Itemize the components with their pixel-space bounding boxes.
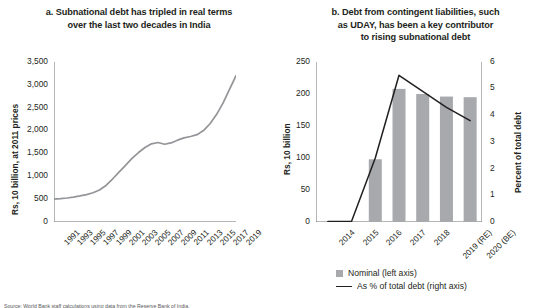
panel-a-ytick-0: 0 <box>14 217 48 226</box>
panel-a-ytick-1000: 1,000 <box>14 171 48 180</box>
bar-2018 <box>416 94 429 222</box>
panel-b-ytick-right-5: 5 <box>490 83 510 92</box>
panel-b-ytick-right-0: 0 <box>490 217 510 226</box>
legend-line-icon <box>336 286 352 287</box>
panel-a-ytick-3500: 3,500 <box>14 57 48 66</box>
chart-panel-a: a. Subnational debt has tripled in real … <box>0 0 278 308</box>
bar-2019 (RE) <box>440 97 453 222</box>
panel-b-xtick-2015: 2015 <box>361 228 380 247</box>
chart-legend: Nominal (left axis) As % of total debt (… <box>318 268 553 294</box>
panel-b-xtick-2018: 2018 <box>432 228 451 247</box>
panel-b-ytick-right-6: 6 <box>490 57 510 66</box>
panel-b-ytick-200: 200 <box>280 89 310 98</box>
panel-b-xtick-2016: 2016 <box>385 228 404 247</box>
panel-b-ytick-0: 0 <box>280 217 310 226</box>
panel-b-ytick-150: 150 <box>280 121 310 130</box>
panel-b-ytick-right-3: 3 <box>490 137 510 146</box>
panel-b-ytick-right-4: 4 <box>490 110 510 119</box>
panel-a-title: a. Subnational debt has tripled in real … <box>0 6 278 31</box>
panel-a-plot-area <box>54 62 236 222</box>
panel-b-ytick-right-2: 2 <box>490 164 510 173</box>
panel-b-xtick-2017: 2017 <box>408 228 427 247</box>
panel-a-ytick-2500: 2,500 <box>14 103 48 112</box>
panel-b-ytick-100: 100 <box>280 153 310 162</box>
panel-a-ytick-3000: 3,000 <box>14 80 48 89</box>
panel-b-ytick-right-1: 1 <box>490 190 510 199</box>
legend-label-percent: As % of total debt (right axis) <box>357 281 467 291</box>
legend-item-nominal: Nominal (left axis) <box>318 268 553 278</box>
panel-a-ytick-2000: 2,000 <box>14 125 48 134</box>
panel-b-ytick-50: 50 <box>280 185 310 194</box>
panel-b-plot-area <box>316 62 482 222</box>
panel-b-title: b. Debt from contingent liabilities, suc… <box>278 6 553 44</box>
legend-item-percent: As % of total debt (right axis) <box>318 281 553 291</box>
panel-a-ytick-500: 500 <box>14 194 48 203</box>
panel-b-y-axis-label-left: Rs, 10 billion <box>282 123 292 175</box>
source-note: Source: World Bank staff calculations us… <box>4 303 190 308</box>
bar-2017 <box>393 89 406 222</box>
panel-a-ytick-1500: 1,500 <box>14 148 48 157</box>
panel-b-ytick-250: 250 <box>280 57 310 66</box>
chart-panel-b: b. Debt from contingent liabilities, suc… <box>278 0 553 308</box>
panel-b-y-axis-label-right: Percent of total debt <box>513 112 523 193</box>
legend-square-icon <box>336 270 343 277</box>
bar-2020 (BE) <box>464 97 477 222</box>
legend-label-nominal: Nominal (left axis) <box>348 268 417 278</box>
panel-b-xtick-2014: 2014 <box>337 228 356 247</box>
